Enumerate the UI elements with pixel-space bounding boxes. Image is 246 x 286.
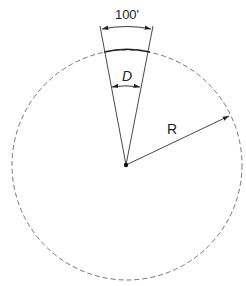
radial-line-left (100, 26, 126, 165)
radial-line-right (126, 26, 153, 165)
radius-line (126, 116, 229, 165)
angle-label: D (122, 68, 132, 84)
arc-length-label: 100' (115, 7, 139, 22)
angle-dimension (112, 86, 140, 87)
center-point (124, 163, 128, 167)
arc-segment (104, 49, 150, 52)
arc-length-dimension (102, 27, 151, 30)
radius-label: R (167, 121, 177, 137)
curve-diagram: 100' D R (0, 0, 246, 286)
